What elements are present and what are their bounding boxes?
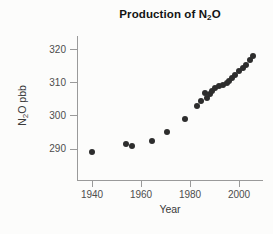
x-tick-mark xyxy=(92,180,93,187)
chart-title-text: Production of N xyxy=(119,8,207,20)
data-point xyxy=(129,143,135,149)
x-axis-label: Year xyxy=(77,203,263,215)
chart-title-suffix: O xyxy=(212,8,221,20)
x-axis-line xyxy=(77,180,263,181)
y-axis-line xyxy=(77,36,78,181)
x-tick-label: 1940 xyxy=(75,189,109,200)
x-tick-mark xyxy=(239,180,240,187)
y-axis-label-subscript: 2 xyxy=(21,114,30,118)
data-point xyxy=(164,129,170,135)
y-tick-label: 310 xyxy=(36,77,66,88)
data-point xyxy=(198,98,204,104)
data-point xyxy=(123,141,129,147)
data-point xyxy=(149,138,155,144)
x-tick-mark xyxy=(141,180,142,187)
y-tick-mark xyxy=(70,115,77,116)
x-tick-label: 2000 xyxy=(222,189,256,200)
y-tick-label: 300 xyxy=(36,110,66,121)
chart-title: Production of N2O xyxy=(77,8,263,22)
x-tick-mark xyxy=(190,180,191,187)
x-tick-label: 1960 xyxy=(124,189,158,200)
y-tick-mark xyxy=(70,82,77,83)
data-point xyxy=(182,116,188,122)
y-tick-mark xyxy=(70,49,77,50)
y-tick-label: 320 xyxy=(36,44,66,55)
y-axis-label: N2O pbb xyxy=(16,61,29,151)
scatter-chart: Production of N2O N2O pbb 29030031032019… xyxy=(0,0,273,234)
x-tick-label: 1980 xyxy=(173,189,207,200)
data-point xyxy=(250,53,256,59)
y-axis-label-text: N xyxy=(16,118,28,126)
y-tick-mark xyxy=(70,149,77,150)
data-point xyxy=(89,149,95,155)
y-axis-label-suffix: O pbb xyxy=(16,85,28,114)
y-tick-label: 290 xyxy=(36,143,66,154)
